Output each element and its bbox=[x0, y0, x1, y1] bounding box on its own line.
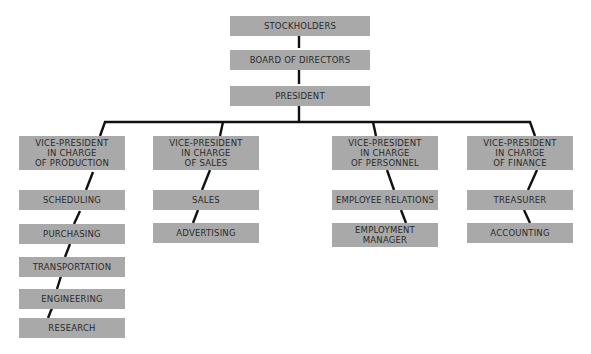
dept-box: TREASURER bbox=[467, 190, 573, 210]
dept-box: EMPLOYEE RELATIONS bbox=[332, 190, 438, 210]
vp-box-1: VICE-PRESIDENT IN CHARGE OF SALES bbox=[153, 136, 259, 170]
dept-box: SALES bbox=[153, 190, 259, 210]
dept-box: SCHEDULING bbox=[19, 190, 125, 210]
dept-box: RESEARCH bbox=[19, 318, 125, 338]
vp-box-3: VICE-PRESIDENT IN CHARGE OF FINANCE bbox=[467, 136, 573, 170]
dept-box: EMPLOYMENT MANAGER bbox=[332, 223, 438, 247]
vp-box-2: VICE-PRESIDENT IN CHARGE OF PERSONNEL bbox=[332, 136, 438, 170]
box-board: BOARD OF DIRECTORS bbox=[230, 50, 370, 70]
vp-box-0: VICE-PRESIDENT IN CHARGE OF PRODUCTION bbox=[19, 136, 125, 170]
dept-box: ADVERTISING bbox=[153, 223, 259, 243]
box-president: PRESIDENT bbox=[230, 86, 370, 106]
dept-box: TRANSPORTATION bbox=[19, 257, 125, 277]
box-stockholders: STOCKHOLDERS bbox=[230, 16, 370, 36]
dept-box: ACCOUNTING bbox=[467, 223, 573, 243]
dept-box: PURCHASING bbox=[19, 224, 125, 244]
dept-box: ENGINEERING bbox=[19, 289, 125, 309]
